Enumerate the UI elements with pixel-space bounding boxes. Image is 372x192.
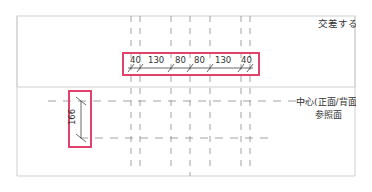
reference-plane-label: 参照面 — [315, 108, 342, 121]
dim-value-80-left[interactable]: 80 — [175, 55, 186, 65]
dim-value-130-right[interactable]: 130 — [215, 55, 231, 65]
horizontal-dimension-string — [128, 64, 253, 72]
center-front-back-label: 中心(正面/背面) — [296, 95, 360, 108]
frame-right-mask — [356, 0, 372, 192]
dim-value-130-left[interactable]: 130 — [148, 55, 164, 65]
dim-value-80-right[interactable]: 80 — [194, 55, 205, 65]
vertical-reference-lines — [131, 16, 250, 176]
dim-value-40-left[interactable]: 40 — [130, 55, 141, 65]
dim-value-166[interactable]: 166 — [67, 109, 77, 125]
dim-value-40-right[interactable]: 40 — [241, 55, 252, 65]
view-frame — [17, 16, 355, 87]
vertical-dimension — [76, 97, 86, 142]
